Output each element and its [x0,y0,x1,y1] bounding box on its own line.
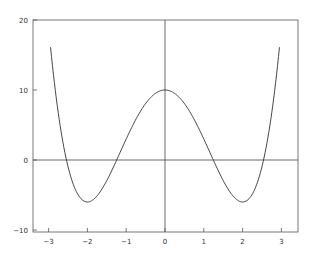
x-tick-label: 2 [240,238,244,246]
x-axis-ticks: −3−2−10123 [43,228,283,246]
x-tick-label: −1 [121,238,131,246]
y-tick-label: −10 [13,227,28,235]
y-tick-label: 0 [24,157,28,165]
y-axis-ticks: −1001020 [13,17,37,235]
y-tick-label: 10 [19,87,28,95]
x-tick-label: 0 [163,238,167,246]
x-tick-label: 3 [279,238,283,246]
x-tick-label: −3 [43,238,53,246]
x-tick-label: −2 [82,238,92,246]
plot-frame [33,20,298,232]
chart: −3−2−10123 −1001020 [0,0,313,258]
y-tick-label: 20 [19,17,28,25]
x-tick-label: 1 [202,238,206,246]
